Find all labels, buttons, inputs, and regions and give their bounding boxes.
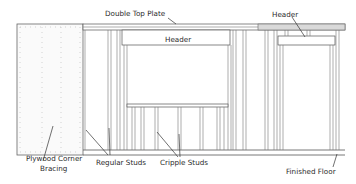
label-door-header: Header bbox=[272, 10, 298, 19]
label-double-top-plate: Double Top Plate bbox=[105, 9, 166, 18]
label-plywood-line1: Plywood Corner bbox=[26, 154, 82, 163]
leader-finished-floor bbox=[333, 154, 337, 167]
wall-framing-diagram: Double Top Plate Header Header Plywood C… bbox=[0, 0, 356, 184]
label-regular-studs: Regular Studs bbox=[96, 158, 146, 167]
label-finished-floor: Finished Floor bbox=[286, 167, 336, 176]
door-header bbox=[278, 36, 335, 45]
double-top-plate bbox=[83, 24, 345, 30]
bottom-plate bbox=[83, 150, 345, 155]
leader-double-top-plate bbox=[168, 18, 176, 24]
leader-cripple-studs-2 bbox=[179, 134, 180, 157]
regular-studs bbox=[85, 30, 339, 150]
label-window-header: Header bbox=[165, 35, 191, 44]
label-cripple-studs: Cripple Studs bbox=[160, 158, 208, 167]
label-plywood-line2: Bracing bbox=[40, 164, 67, 173]
leader-regular-studs-2 bbox=[109, 128, 110, 155]
cripple-studs bbox=[132, 107, 224, 150]
door-cripple-studs bbox=[285, 30, 310, 36]
leader-regular-studs-1 bbox=[86, 130, 108, 155]
window-sill bbox=[127, 104, 228, 107]
door-trimmer-studs bbox=[280, 45, 333, 150]
window-trimmer-studs bbox=[124, 45, 231, 150]
leader-cripple-studs-1 bbox=[157, 132, 178, 157]
